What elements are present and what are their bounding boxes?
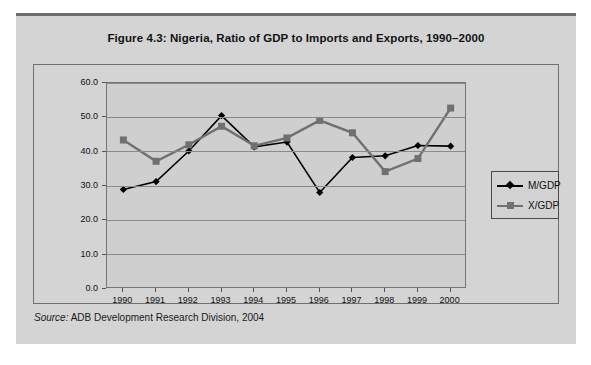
x-axis-tick-mark [384,288,385,292]
y-axis-tick-label: 20.0 [54,214,98,224]
chart-frame: 0.010.020.030.040.050.060.01990199119921… [33,64,559,304]
x-axis-tick-mark [155,288,156,292]
x-axis-tick-label: 1992 [178,295,198,305]
gridline [107,254,465,255]
gridline [107,117,465,118]
y-axis-tick-mark [102,185,106,186]
square-marker-icon [251,142,258,149]
y-axis-tick-label: 10.0 [54,249,98,259]
square-marker-icon [382,168,389,175]
y-axis-tick-label: 30.0 [54,180,98,190]
y-axis-tick-mark [102,288,106,289]
y-axis-tick-label: 40.0 [54,146,98,156]
x-axis-tick-mark [351,288,352,292]
x-axis-tick-mark [221,288,222,292]
legend-label-m-gdp: M/GDP [528,180,561,191]
x-axis-tick-label: 1990 [112,295,132,305]
diamond-marker-icon [414,142,421,149]
x-axis-tick-label: 1999 [407,295,427,305]
diamond-marker-icon [382,152,389,159]
square-marker-icon [414,155,421,162]
figure-title: Figure 4.3: Nigeria, Ratio of GDP to Imp… [16,32,576,44]
x-axis-tick-label: 1997 [341,295,361,305]
source-text: ADB Development Research Division, 2004 [71,312,264,323]
x-axis-tick-label: 1994 [243,295,263,305]
diamond-marker-icon [447,143,454,150]
square-marker-icon [507,202,514,209]
legend-item-m-gdp: M/GDP [497,178,561,192]
legend-label-x-gdp: X/GDP [528,200,559,211]
square-marker-icon [120,136,127,143]
x-axis-tick-mark [188,288,189,292]
square-marker-icon [218,123,225,130]
source-note: Source: ADB Development Research Divisio… [34,312,264,323]
x-axis-tick-mark [122,288,123,292]
gridline [107,186,465,187]
y-axis-tick-label: 0.0 [54,283,98,293]
diamond-marker-icon [506,181,514,189]
y-axis-tick-mark [102,82,106,83]
source-label: Source: [34,312,68,323]
x-axis-tick-mark [253,288,254,292]
y-axis-tick-label: 60.0 [54,77,98,87]
plot-area [106,82,466,288]
square-marker-icon [153,158,160,165]
x-axis-tick-mark [450,288,451,292]
square-marker-icon [349,129,356,136]
figure-panel: Figure 4.3: Nigeria, Ratio of GDP to Imp… [16,16,576,344]
gridline [107,220,465,221]
gridline [107,151,465,152]
y-axis-tick-mark [102,219,106,220]
x-axis-tick-label: 2000 [440,295,460,305]
y-axis-tick-mark [102,116,106,117]
x-axis-tick-label: 1998 [374,295,394,305]
x-axis-tick-label: 1991 [145,295,165,305]
square-marker-icon [316,117,323,124]
y-axis-tick-label: 50.0 [54,111,98,121]
x-axis-tick-mark [286,288,287,292]
figure-page: Figure 4.3: Nigeria, Ratio of GDP to Imp… [0,0,591,365]
x-axis-tick-label: 1993 [211,295,231,305]
y-axis-tick-mark [102,254,106,255]
diamond-marker-icon [120,186,127,193]
x-axis-tick-mark [417,288,418,292]
gridline [107,83,465,84]
x-axis-tick-label: 1995 [276,295,296,305]
chart-legend: M/GDP X/GDP [491,171,559,219]
square-marker-icon [185,141,192,148]
square-marker-icon [284,134,291,141]
legend-swatch-x-gdp [497,200,523,210]
square-marker-icon [447,105,454,112]
x-axis-tick-mark [319,288,320,292]
legend-item-x-gdp: X/GDP [497,198,559,212]
legend-swatch-m-gdp [497,180,523,190]
x-axis-tick-label: 1996 [309,295,329,305]
y-axis-tick-mark [102,151,106,152]
